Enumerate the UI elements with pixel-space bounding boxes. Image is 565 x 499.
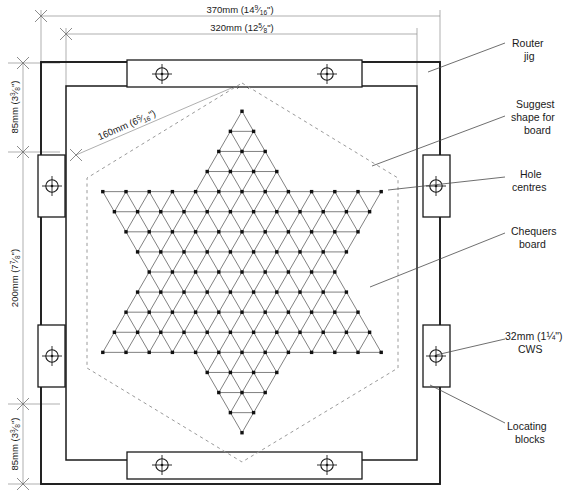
hole-centre-dot[interactable] (252, 130, 255, 133)
hole-centre-dot[interactable] (252, 170, 255, 173)
hole-centre-dot[interactable] (148, 190, 151, 193)
hole-centre-dot[interactable] (171, 230, 174, 233)
hole-centre-dot[interactable] (380, 190, 383, 193)
hole-centre-dot[interactable] (298, 250, 301, 253)
hole-centre-dot[interactable] (345, 210, 348, 213)
hole-centre-dot[interactable] (264, 351, 267, 354)
hole-centre-dot[interactable] (206, 371, 209, 374)
hole-centre-dot[interactable] (345, 331, 348, 334)
hole-centre-dot[interactable] (240, 110, 243, 113)
hole-centre-dot[interactable] (264, 270, 267, 273)
hole-centre-dot[interactable] (217, 351, 220, 354)
hole-centre-dot[interactable] (101, 351, 104, 354)
hole-centre-dot[interactable] (298, 331, 301, 334)
hole-centre-dot[interactable] (322, 250, 325, 253)
hole-centre-dot[interactable] (136, 210, 139, 213)
hole-centre-dot[interactable] (148, 351, 151, 354)
hole-centre-dot[interactable] (229, 331, 232, 334)
hole-centre-dot[interactable] (229, 170, 232, 173)
hole-centre-dot[interactable] (217, 270, 220, 273)
hole-centre-dot[interactable] (159, 290, 162, 293)
hole-centre-dot[interactable] (124, 310, 127, 313)
hole-centre-dot[interactable] (252, 250, 255, 253)
hole-centre-dot[interactable] (148, 270, 151, 273)
hole-centre-dot[interactable] (345, 250, 348, 253)
hole-centre-dot[interactable] (322, 331, 325, 334)
hole-centre-dot[interactable] (264, 190, 267, 193)
hole-centre-dot[interactable] (136, 331, 139, 334)
hole-centre-dot[interactable] (310, 351, 313, 354)
hole-centre-dot[interactable] (229, 250, 232, 253)
hole-centre-dot[interactable] (275, 210, 278, 213)
hole-centre-dot[interactable] (113, 210, 116, 213)
hole-centre-dot[interactable] (113, 331, 116, 334)
hole-centre-dot[interactable] (298, 290, 301, 293)
hole-centre-dot[interactable] (182, 331, 185, 334)
hole-centre-dot[interactable] (240, 270, 243, 273)
hole-centre-dot[interactable] (240, 190, 243, 193)
hole-centre-dot[interactable] (148, 230, 151, 233)
hole-centre-dot[interactable] (310, 230, 313, 233)
hole-centre-dot[interactable] (240, 310, 243, 313)
hole-centre-dot[interactable] (275, 170, 278, 173)
hole-centre-dot[interactable] (206, 290, 209, 293)
hole-centre-dot[interactable] (356, 310, 359, 313)
hole-centre-dot[interactable] (171, 270, 174, 273)
hole-centre-dot[interactable] (298, 210, 301, 213)
hole-centre-dot[interactable] (380, 351, 383, 354)
hole-centre-dot[interactable] (333, 270, 336, 273)
hole-centre-dot[interactable] (275, 290, 278, 293)
hole-centre-dot[interactable] (148, 310, 151, 313)
hole-centre-dot[interactable] (206, 250, 209, 253)
hole-centre-dot[interactable] (229, 411, 232, 414)
hole-centre-dot[interactable] (264, 230, 267, 233)
hole-centre-dot[interactable] (182, 290, 185, 293)
hole-centre-dot[interactable] (136, 290, 139, 293)
hole-centre-dot[interactable] (356, 230, 359, 233)
hole-centre-dot[interactable] (252, 331, 255, 334)
hole-centre-dot[interactable] (264, 310, 267, 313)
hole-centre-dot[interactable] (240, 391, 243, 394)
hole-centre-dot[interactable] (182, 210, 185, 213)
hole-centre-dot[interactable] (264, 150, 267, 153)
hole-centre-dot[interactable] (368, 331, 371, 334)
hole-centre-dot[interactable] (356, 351, 359, 354)
hole-centre-dot[interactable] (136, 250, 139, 253)
hole-centre-dot[interactable] (252, 210, 255, 213)
hole-centre-dot[interactable] (229, 290, 232, 293)
hole-centre-dot[interactable] (240, 150, 243, 153)
hole-centre-dot[interactable] (240, 230, 243, 233)
hole-centre-dot[interactable] (287, 270, 290, 273)
hole-centre-dot[interactable] (159, 210, 162, 213)
hole-centre-dot[interactable] (240, 351, 243, 354)
hole-centre-dot[interactable] (217, 391, 220, 394)
hole-centre-dot[interactable] (287, 351, 290, 354)
hole-centre-dot[interactable] (159, 331, 162, 334)
hole-centre-dot[interactable] (287, 190, 290, 193)
hole-centre-dot[interactable] (124, 190, 127, 193)
hole-centre-dot[interactable] (124, 351, 127, 354)
hole-centre-dot[interactable] (194, 270, 197, 273)
hole-centre-dot[interactable] (217, 310, 220, 313)
hole-centre-dot[interactable] (194, 351, 197, 354)
hole-centre-dot[interactable] (287, 310, 290, 313)
hole-centre-dot[interactable] (310, 310, 313, 313)
hole-centre-dot[interactable] (171, 190, 174, 193)
hole-centre-dot[interactable] (159, 250, 162, 253)
hole-centre-dot[interactable] (333, 190, 336, 193)
hole-centre-dot[interactable] (229, 371, 232, 374)
hole-centre-dot[interactable] (310, 270, 313, 273)
hole-centre-dot[interactable] (368, 210, 371, 213)
hole-centre-dot[interactable] (229, 130, 232, 133)
hole-centre-dot[interactable] (333, 351, 336, 354)
hole-centre-dot[interactable] (310, 190, 313, 193)
hole-centre-dot[interactable] (217, 190, 220, 193)
hole-centre-dot[interactable] (206, 170, 209, 173)
hole-centre-dot[interactable] (287, 230, 290, 233)
hole-centre-dot[interactable] (322, 210, 325, 213)
hole-centre-dot[interactable] (206, 331, 209, 334)
hole-centre-dot[interactable] (182, 250, 185, 253)
hole-centre-dot[interactable] (206, 210, 209, 213)
hole-centre-dot[interactable] (252, 411, 255, 414)
hole-centre-dot[interactable] (101, 190, 104, 193)
